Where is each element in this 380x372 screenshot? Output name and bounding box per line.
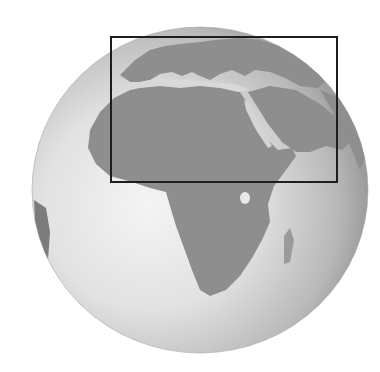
lake-victoria — [240, 192, 250, 204]
highlight-rectangle — [110, 36, 338, 183]
map-figure — [0, 0, 380, 372]
